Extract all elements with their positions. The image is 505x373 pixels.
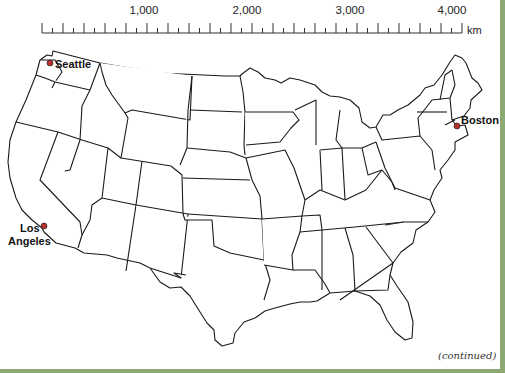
city-label-los: Los: [20, 222, 40, 234]
city-dot-icon: [46, 59, 54, 67]
us-outline: [8, 51, 482, 346]
city-label-boston: Boston: [461, 114, 499, 126]
page-border-right: [500, 0, 505, 373]
us-states-map: [0, 0, 500, 369]
city-label-angeles: Angeles: [8, 235, 51, 247]
page-border-bottom: [0, 369, 505, 373]
city-dot-icon: [453, 122, 461, 130]
continued-note: (continued): [438, 350, 496, 361]
scale-ticks: [42, 23, 462, 33]
city-label-seattle: Seattle: [55, 58, 91, 70]
state-outlines: [8, 51, 482, 346]
city-dot-icon: [40, 222, 48, 230]
